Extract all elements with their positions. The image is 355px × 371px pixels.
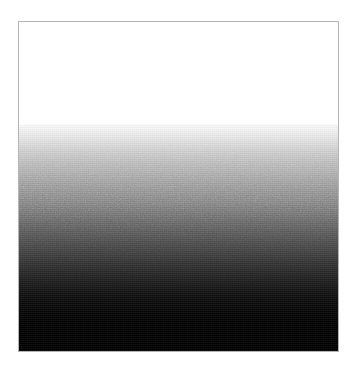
page-canvas	[0, 0, 355, 371]
gradient-surface	[19, 22, 338, 351]
grayscale-gradient-image	[18, 21, 339, 352]
